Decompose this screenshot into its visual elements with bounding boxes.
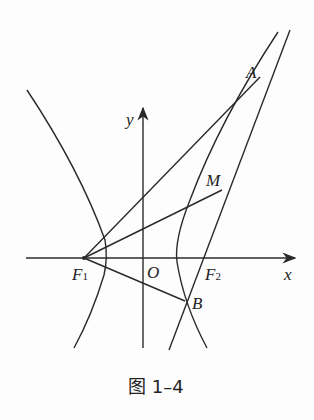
segment-f1-a: [84, 77, 260, 258]
label-a: A: [246, 64, 256, 81]
segment-f1-m: [84, 190, 222, 258]
label-f1: F1: [72, 266, 88, 283]
label-y-axis: y: [126, 111, 134, 128]
label-origin: O: [147, 264, 159, 281]
left-hyperbola-branch: [27, 90, 106, 348]
diagram-canvas: [0, 0, 314, 420]
label-m: M: [206, 172, 220, 189]
figure-caption: 图 1–4: [128, 372, 184, 398]
label-f2: F2: [205, 266, 221, 283]
line-a-f2-b: [169, 30, 290, 350]
label-b: B: [192, 295, 202, 312]
label-x-axis: x: [284, 266, 292, 283]
segment-f1-b: [84, 258, 185, 301]
hyperbola-figure: A M B O F1 F2 x y 图 1–4: [0, 0, 314, 420]
